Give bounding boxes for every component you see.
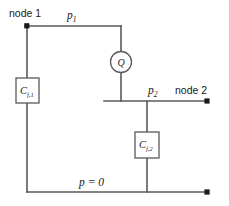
schematic-canvas: Q Cf,1 Cf,2 node 1 node 2 p <box>0 0 229 206</box>
node-1-label: node 1 <box>9 7 41 19</box>
node-2-terminal-dot <box>204 98 209 103</box>
flow-source-label: Q <box>117 57 125 68</box>
flow-source-q: Q <box>111 52 132 73</box>
capacitor-f2: Cf,2 <box>135 132 159 158</box>
node-1-terminal-dot <box>24 23 29 28</box>
terminal-dot-group <box>24 23 209 194</box>
pressure-1-label: p1 <box>66 9 77 24</box>
ground-pressure-label: p = 0 <box>78 176 104 189</box>
pressure-1-subscript: 1 <box>73 15 77 24</box>
capacitor-f1: Cf,1 <box>16 78 39 103</box>
capacitor-f2-subscript: f,2 <box>146 145 153 152</box>
ground-terminal-dot <box>204 189 209 194</box>
capacitor-f1-subscript: f,1 <box>27 91 34 98</box>
fluid-network-diagram: Q Cf,1 Cf,2 node 1 node 2 p <box>0 0 229 206</box>
wire-group <box>27 26 207 192</box>
pressure-2-label: p2 <box>147 84 158 99</box>
pressure-2-subscript: 2 <box>154 90 158 99</box>
node-2-label: node 2 <box>175 84 207 96</box>
